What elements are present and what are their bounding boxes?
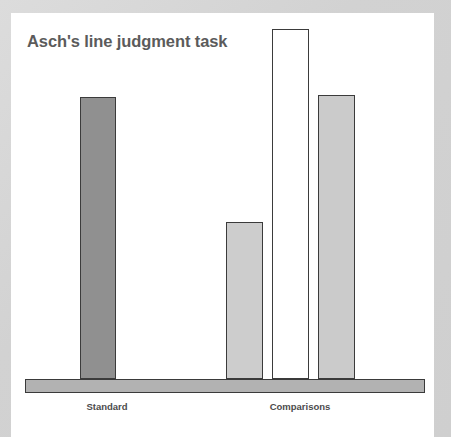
chart-plot-area: Standard Comparisons [11,13,434,437]
bar-comparison-2 [272,29,309,379]
bar-comparison-3 [318,95,355,379]
chart-baseline [25,379,425,393]
group-label-comparisons: Comparisons [240,401,360,412]
page-background: Asch's line judgment task Standard Compa… [0,0,451,437]
bar-comparison-1 [226,222,263,379]
figure-card: Asch's line judgment task Standard Compa… [11,13,434,437]
bar-standard-line [80,97,116,379]
group-label-standard: Standard [57,401,157,412]
